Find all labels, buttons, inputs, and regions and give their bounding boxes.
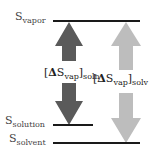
arrow-up-light-icon <box>111 22 141 70</box>
delta-s-vap-soln-label: [ΔSvap]soln <box>44 67 100 81</box>
arrow-down-dark-icon <box>55 83 83 125</box>
delta-s-vap-solv-label: [ΔSvap]solv <box>93 73 148 87</box>
delta: Δ <box>97 72 106 85</box>
subscript: vap <box>113 78 127 87</box>
arrow-down-light-icon <box>111 93 141 143</box>
delta: Δ <box>48 66 57 79</box>
vapor-level-line <box>53 20 140 22</box>
arrow-up-dark-icon <box>55 22 83 61</box>
solvent-level-line <box>53 142 140 144</box>
outer-subscript: solv <box>132 78 148 87</box>
solution-level-line <box>53 124 93 126</box>
subscript: vap <box>64 72 78 81</box>
